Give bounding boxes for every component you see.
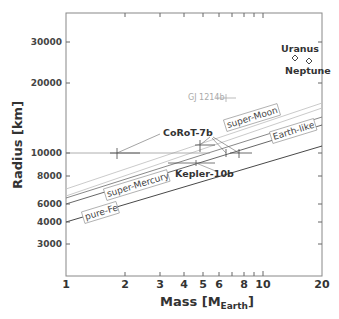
neptune-marker-icon bbox=[306, 58, 312, 64]
corot7b-label: CoRoT-7b bbox=[163, 127, 213, 138]
x-tick-10: 10 bbox=[255, 278, 271, 291]
x-axis: 1 2 3 4 5 6 8 10 20 bbox=[62, 13, 330, 291]
x-tick-6: 6 bbox=[215, 278, 223, 291]
y-tick-20000: 20000 bbox=[31, 78, 62, 88]
x-tick-5: 5 bbox=[199, 278, 207, 291]
y-tick-8000: 8000 bbox=[37, 171, 62, 181]
curve-label-super-mercury: super-Mercury bbox=[103, 169, 171, 200]
pure-fe-label: pure-Fe bbox=[84, 202, 120, 222]
x-axis-title-main: Mass [M bbox=[160, 294, 221, 309]
y-tick-10000: 10000 bbox=[31, 148, 62, 158]
curve-label-pure-fe: pure-Fe bbox=[81, 201, 119, 223]
neptune-label: Neptune bbox=[285, 65, 331, 76]
y-tick-3000: 3000 bbox=[37, 239, 62, 249]
y-tick-6000: 6000 bbox=[37, 199, 62, 209]
x-axis-title-sub: Earth bbox=[221, 301, 248, 311]
x-tick-1: 1 bbox=[62, 278, 70, 291]
y-tick-30000: 30000 bbox=[31, 37, 62, 47]
kepler10b-label: Kepler-10b bbox=[175, 168, 234, 179]
y-axis: 30000 20000 10000 8000 6000 4000 3000 bbox=[31, 37, 322, 249]
uranus-label: Uranus bbox=[281, 43, 319, 54]
data-points bbox=[110, 55, 312, 172]
x-tick-2: 2 bbox=[121, 278, 129, 291]
mass-radius-chart: super-Moon Earth-like super-Mercury pure… bbox=[0, 0, 339, 319]
super-mercury-label: super-Mercury bbox=[106, 170, 171, 199]
curve-label-super-moon: super-Moon bbox=[223, 104, 280, 132]
x-axis-title: Mass [MEarth] bbox=[160, 294, 254, 311]
curve-upper bbox=[66, 108, 322, 196]
gj1214b-label: GJ 1214b bbox=[188, 93, 225, 102]
x-axis-title-close: ] bbox=[248, 294, 254, 309]
x-tick-3: 3 bbox=[156, 278, 164, 291]
x-tick-4: 4 bbox=[180, 278, 188, 291]
curve-label-earth-like: Earth-like bbox=[269, 119, 316, 144]
x-tick-20: 20 bbox=[314, 278, 330, 291]
y-tick-4000: 4000 bbox=[37, 217, 62, 227]
x-tick-8: 8 bbox=[240, 278, 248, 291]
uranus-marker-icon bbox=[292, 55, 298, 61]
y-axis-title: Radius [km] bbox=[10, 101, 25, 189]
composition-curves bbox=[66, 103, 322, 222]
